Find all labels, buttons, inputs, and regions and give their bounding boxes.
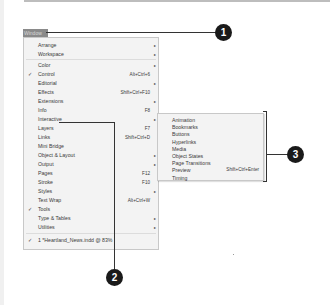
menu-item-shortcut: F7 [145,124,150,133]
callout-2-line-v [114,122,115,270]
menu-item-label: Stroke [38,178,53,187]
menu-item-label: Arrange [38,41,56,50]
submenu-arrow-icon: ▸ [154,79,156,88]
menu-item-label: Layers [38,124,54,133]
callout-2-line-h [59,122,115,123]
submenu-arrow-icon: ▸ [154,115,156,124]
menu-item-info[interactable]: InfoF8 [24,106,158,115]
menu-item-label: Extensions [38,97,63,106]
menu-item-color[interactable]: Color▸ [24,61,158,70]
menu-item-label: Links [38,133,50,142]
menu-item-styles[interactable]: Styles▸ [24,187,158,196]
menu-item-label: Output [38,160,54,169]
menu-item-label: Tools [38,205,50,214]
menu-item-stroke[interactable]: StrokeF10 [24,178,158,187]
callout-3-bracket-bottom [263,181,267,182]
submenu-arrow-icon: ▸ [154,41,156,50]
menu-item-shortcut: F8 [145,106,150,115]
menu-item-label: Color [38,61,50,70]
submenu-arrow-icon: ▸ [154,187,156,196]
menu-item-label: Editorial [38,79,57,88]
checkmark-icon: ✓ [28,236,32,245]
callout-3: 3 [287,146,304,163]
menu-item-label: Workspace [38,50,64,59]
interactive-submenu: AnimationBookmarksButtonsHyperlinksMedia… [157,113,264,181]
checkmark-icon: ✓ [28,205,32,214]
menu-item-output[interactable]: Output▸ [24,160,158,169]
left-edge [0,0,4,305]
menu-item-shortcut: Alt+Ctrl+6 [130,70,150,79]
submenu-item-timing[interactable]: Timing [158,174,263,182]
submenu-arrow-icon: ▸ [154,160,156,169]
menu-item-workspace[interactable]: Workspace▸ [24,50,158,59]
menu-item-arrange[interactable]: Arrange▸ [24,41,158,50]
menu-item-label: Utilities [38,223,55,232]
menu-item-label: Type & Tables [38,214,71,223]
menu-item-control[interactable]: ✓ControlAlt+Ctrl+6 [24,70,158,79]
window-menu-title[interactable]: Window [23,29,48,37]
menu-item-object-layout[interactable]: Object & Layout▸ [24,151,158,160]
window-menu: Arrange▸Workspace▸Color▸✓ControlAlt+Ctrl… [23,37,159,250]
submenu-arrow-icon: ▸ [154,223,156,232]
menu-item-label: Object & Layout [38,151,75,160]
menu-item-mini-bridge[interactable]: Mini Bridge [24,142,158,151]
checkmark-icon: ✓ [28,70,32,79]
menu-item-label: Control [38,70,55,79]
menu-item-label: 1 *Heartland_News.indd @ 83% [38,236,112,245]
top-strip [24,0,330,2]
submenu-arrow-icon: ▸ [154,50,156,59]
menu-item-utilities[interactable]: Utilities▸ [24,223,158,232]
menu-item-shortcut: Shift+Ctrl+F10 [120,88,150,97]
menu-item-shortcut: Shift+Ctrl+D [125,133,150,142]
menu-separator [26,59,156,60]
menu-item-label: Text Wrap [38,196,61,205]
menu-item-editorial[interactable]: Editorial▸ [24,79,158,88]
menu-item-shortcut: F10 [142,178,150,187]
callout-2: 2 [106,269,123,286]
menu-item-links[interactable]: LinksShift+Ctrl+D [24,133,158,142]
submenu-arrow-icon: ▸ [154,214,156,223]
callout-1: 1 [215,24,232,41]
menu-item-extensions[interactable]: Extensions▸ [24,97,158,106]
menu-item-text-wrap[interactable]: Text WrapAlt+Ctrl+W [24,196,158,205]
menu-item-effects[interactable]: EffectsShift+Ctrl+F10 [24,88,158,97]
submenu-item-label: Timing [172,174,187,182]
menu-item-label: Effects [38,88,54,97]
menu-item-label: Styles [38,187,52,196]
menu-item-layers[interactable]: LayersF7 [24,124,158,133]
menu-item-tools[interactable]: ✓Tools [24,205,158,214]
menu-item-label: Info [38,106,47,115]
menu-separator [26,233,156,234]
menu-item-shortcut: F12 [142,169,150,178]
menu-item-1-heartland-news-indd-83[interactable]: ✓1 *Heartland_News.indd @ 83% [24,236,158,245]
stray-dot [233,254,234,255]
menu-item-type-tables[interactable]: Type & Tables▸ [24,214,158,223]
menu-item-label: Mini Bridge [38,142,64,151]
menu-item-label: Pages [38,169,53,178]
menu-item-shortcut: Alt+Ctrl+W [128,196,150,205]
callout-1-line [46,32,216,33]
submenu-arrow-icon: ▸ [154,61,156,70]
callout-3-line [266,154,288,155]
menu-item-pages[interactable]: PagesF12 [24,169,158,178]
submenu-arrow-icon: ▸ [154,151,156,160]
callout-3-bracket-v [266,111,267,181]
submenu-arrow-icon: ▸ [154,97,156,106]
